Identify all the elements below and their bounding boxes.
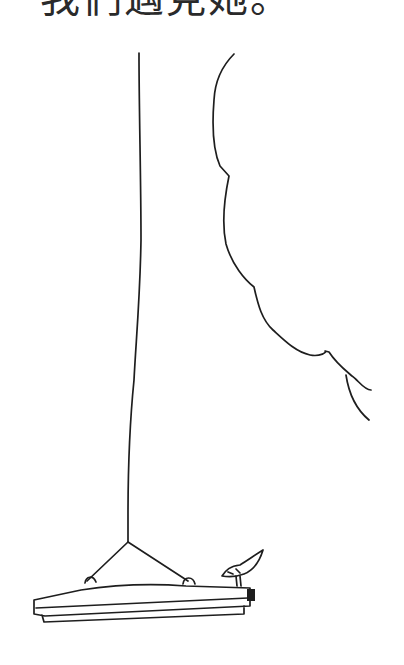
seat-end-knot (247, 589, 255, 601)
swing-seat (34, 585, 250, 622)
tree-foliage-outline (213, 54, 371, 420)
swing-rope (128, 53, 141, 542)
swing-rope-fork (87, 542, 188, 581)
bird-icon (222, 550, 263, 586)
swing-illustration (0, 0, 404, 665)
rope-knot-right (183, 578, 195, 584)
